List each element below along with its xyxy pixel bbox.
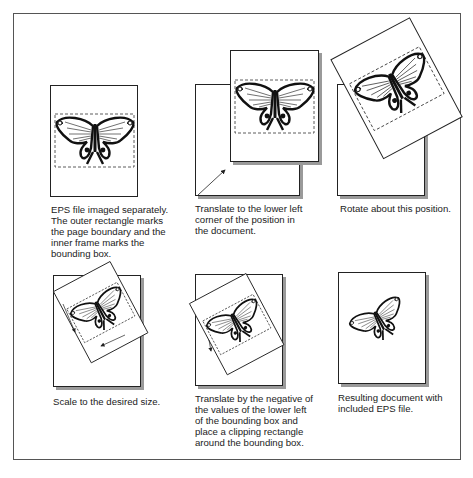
eps-page-rotated: [325, 20, 473, 160]
butterfly-result: [338, 272, 426, 384]
eps-page-scaled: [53, 262, 153, 372]
caption-rotate: Rotate about this position.: [340, 203, 460, 214]
caption-result: Resulting document with included EPS fil…: [338, 392, 458, 414]
butterfly-translated: [230, 50, 319, 162]
eps-page-clipped: [195, 274, 295, 384]
caption-eps-separate: EPS file imaged separately. The outer re…: [51, 204, 171, 259]
translate-arrow-icon: [195, 160, 235, 200]
caption-scale: Scale to the desired size.: [53, 396, 173, 407]
caption-translate-negative: Translate by the negative of the values …: [195, 393, 315, 448]
caption-translate-lower-left: Translate to the lower left corner of th…: [195, 203, 310, 236]
butterfly-bounding-box: [50, 85, 138, 197]
